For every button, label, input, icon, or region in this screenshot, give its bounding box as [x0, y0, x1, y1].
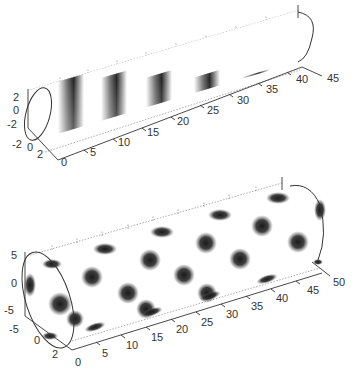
svg-text:45: 45 [307, 284, 319, 296]
svg-text:10: 10 [126, 339, 138, 351]
svg-text:0: 0 [75, 356, 81, 368]
svg-text:30: 30 [237, 94, 249, 106]
svg-text:35: 35 [251, 300, 263, 312]
svg-text:0: 0 [13, 104, 19, 116]
svg-text:-5: -5 [4, 304, 14, 316]
svg-text:0: 0 [61, 156, 67, 168]
svg-text:2: 2 [52, 348, 58, 360]
svg-text:15: 15 [151, 331, 163, 343]
bottom-y-axis [25, 316, 72, 350]
bottom-plot: 5 0 -5 -5 0 2 0 5 10 15 20 25 30 [4, 177, 345, 368]
svg-text:35: 35 [266, 83, 278, 95]
svg-text:0: 0 [34, 334, 40, 346]
svg-text:-2: -2 [12, 138, 22, 150]
top-plot: 2 0 -2 -2 0 2 0 5 10 15 20 25 30 35 [7, 0, 339, 236]
bottom-x-axis [72, 273, 322, 350]
svg-text:25: 25 [207, 104, 219, 116]
svg-text:30: 30 [226, 308, 238, 320]
figure: 2 0 -2 -2 0 2 0 5 10 15 20 25 30 35 [0, 0, 353, 372]
svg-text:5: 5 [11, 249, 17, 261]
svg-text:-5: -5 [9, 323, 19, 335]
svg-text:20: 20 [177, 115, 189, 127]
svg-text:5: 5 [102, 347, 108, 359]
svg-text:40: 40 [296, 73, 308, 85]
svg-text:45: 45 [327, 72, 339, 84]
svg-text:10: 10 [118, 136, 130, 148]
svg-text:2: 2 [37, 148, 43, 160]
bottom-cylinder-surface [24, 192, 326, 340]
top-z-ticks: 2 0 -2 [7, 91, 19, 130]
svg-text:25: 25 [201, 316, 213, 328]
svg-text:15: 15 [147, 126, 159, 138]
top-y-ticks: -2 0 2 [12, 138, 43, 160]
svg-text:20: 20 [176, 323, 188, 335]
svg-text:2: 2 [13, 91, 19, 103]
bottom-z-ticks: 5 0 -5 [4, 249, 17, 316]
svg-text:0: 0 [11, 277, 17, 289]
svg-text:5: 5 [90, 146, 96, 158]
svg-text:-2: -2 [7, 118, 17, 130]
svg-text:40: 40 [276, 292, 288, 304]
svg-text:50: 50 [333, 276, 345, 288]
bottom-y-ticks: -5 0 2 [9, 323, 58, 360]
svg-text:0: 0 [27, 141, 33, 153]
